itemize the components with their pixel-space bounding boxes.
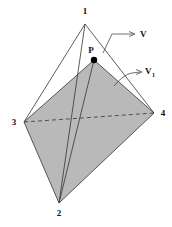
volume-label-v1: V (145, 66, 152, 76)
volume-label-v1-subscript: 1 (152, 72, 155, 78)
vertex-label-1: 1 (83, 6, 88, 16)
vertex-label-4: 4 (161, 108, 166, 118)
tetrahedron-diagram: 1 2 3 4 P V V 1 (0, 0, 172, 227)
volume-label-v: V (140, 29, 147, 39)
vertex-label-3: 3 (12, 117, 17, 127)
point-label-p: P (88, 45, 94, 55)
arrow-v (103, 32, 135, 54)
point-p (91, 57, 97, 63)
vertex-label-2: 2 (57, 208, 62, 218)
